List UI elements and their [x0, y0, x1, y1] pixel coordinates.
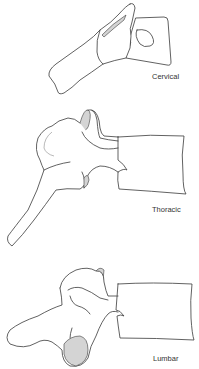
- thoracic-body: [118, 135, 186, 194]
- lumbar-vertebra: [7, 268, 194, 366]
- cervical-spinous-process: [49, 4, 135, 94]
- label-cervical: Cervical: [152, 72, 179, 81]
- thoracic-transverse-process: [8, 118, 119, 246]
- thoracic-superior-process-inner: [92, 110, 118, 137]
- label-lumbar: Lumbar: [153, 354, 178, 363]
- lumbar-body: [116, 283, 194, 340]
- label-thoracic: Thoracic: [152, 205, 181, 214]
- thoracic-vertebra: [8, 110, 187, 246]
- thoracic-inferior-facet-shading: [84, 175, 89, 188]
- lumbar-transverse-process: [7, 288, 118, 366]
- vertebrae-diagram: [0, 0, 199, 369]
